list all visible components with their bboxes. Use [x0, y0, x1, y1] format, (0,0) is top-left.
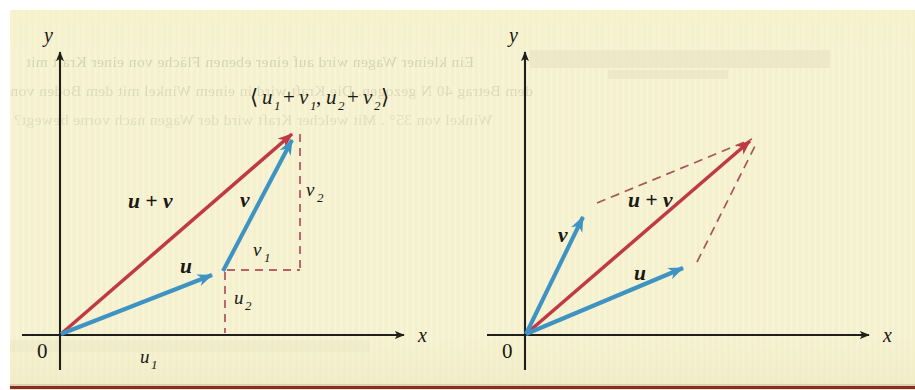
origin-label-right: 0 [502, 339, 513, 363]
label-u-right: u [634, 261, 646, 285]
vector-v-right [526, 217, 583, 334]
vector-u-right [526, 268, 683, 334]
dashed-side-v-to-sum [597, 139, 752, 203]
x-axis-label-right: x [882, 324, 892, 346]
bottom-rule [10, 386, 915, 389]
right-diagram-parallelogram-law: y x 0 v u u + v [0, 0, 915, 390]
label-v-right: v [558, 223, 568, 247]
figure-root: Ein kleiner Wagen wird auf einer ebenen … [0, 0, 915, 390]
y-axis-label-right: y [507, 24, 518, 47]
label-u-plus-v-right: u + v [628, 188, 673, 212]
